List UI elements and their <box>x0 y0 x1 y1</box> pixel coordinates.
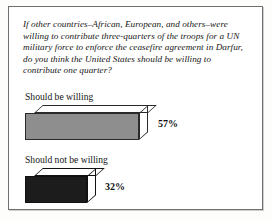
bar-row-should-be-willing: 57% <box>25 105 93 143</box>
bar-group-should-be-willing: Should be willing 57% <box>25 91 93 143</box>
bar-row-should-not-be-willing: 32% <box>25 168 108 206</box>
bar-value-should-not-be-willing: 32% <box>105 181 125 192</box>
bar-side-face <box>87 168 96 203</box>
bar-value-should-be-willing: 57% <box>158 118 178 129</box>
poll-figure: If other countries–African, European, an… <box>0 0 272 221</box>
bar-side-face <box>139 105 148 140</box>
bar-group-should-not-be-willing: Should not be willing 32% <box>25 154 108 206</box>
figure-frame: If other countries–African, European, an… <box>8 6 263 210</box>
bar-front-face <box>25 113 139 140</box>
question-text: If other countries–African, European, an… <box>23 19 251 77</box>
bar-label-should-be-willing: Should be willing <box>25 91 93 102</box>
bar-front-face <box>25 176 87 203</box>
bar-label-should-not-be-willing: Should not be willing <box>25 154 108 165</box>
